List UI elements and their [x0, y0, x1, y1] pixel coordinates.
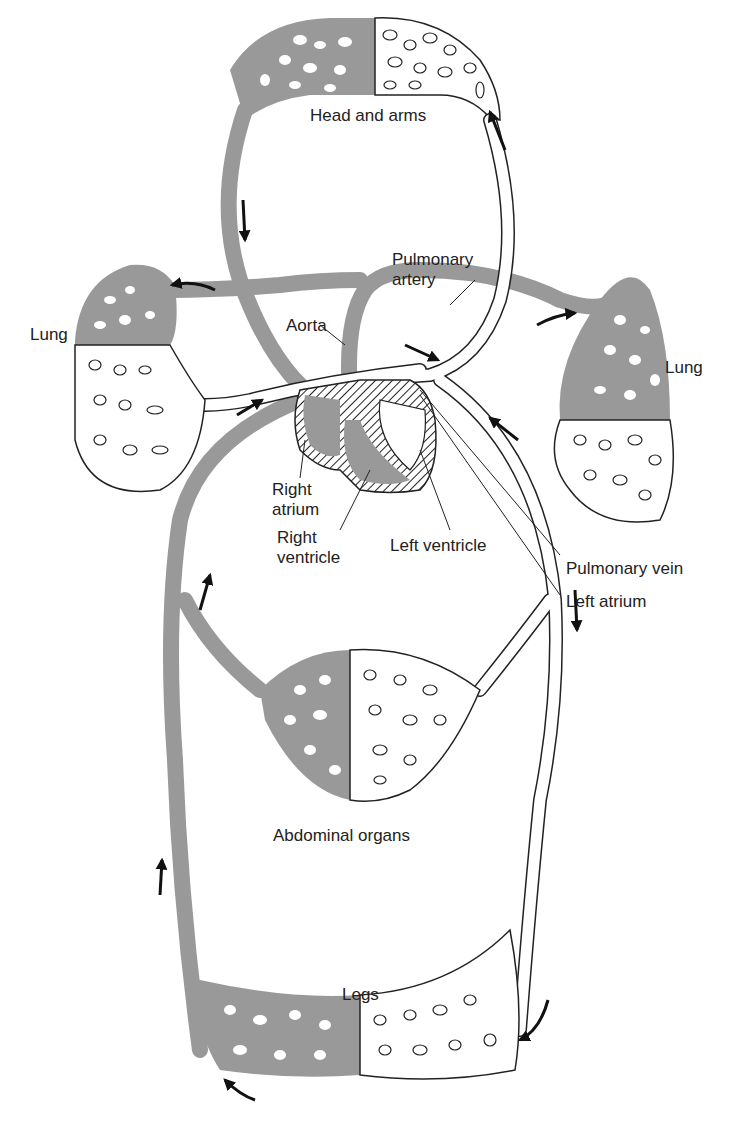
flow-arrows: [160, 112, 577, 1100]
label-legs: Legs: [342, 985, 379, 1005]
label-right-ventricle: Right ventricle: [277, 528, 340, 567]
label-lung-left: Lung: [30, 325, 68, 345]
heart: [295, 380, 436, 493]
label-head-and-arms: Head and arms: [310, 106, 426, 126]
label-right-atrium: Right atrium: [272, 480, 319, 519]
label-pulmonary-artery: Pulmonary artery: [392, 250, 473, 289]
head-arms-capillary-bed: [230, 18, 500, 120]
label-lung-right: Lung: [665, 358, 703, 378]
label-left-atrium: Left atrium: [566, 592, 646, 612]
label-abdominal-organs: Abdominal organs: [273, 826, 410, 846]
label-pulmonary-vein: Pulmonary vein: [566, 559, 683, 579]
venous-vessels: [170, 110, 605, 1050]
label-aorta: Aorta: [286, 316, 327, 336]
left-lung-capillary-bed: [75, 265, 205, 492]
abdominal-capillary-bed: [260, 650, 480, 802]
label-left-ventricle: Left ventricle: [390, 536, 486, 556]
